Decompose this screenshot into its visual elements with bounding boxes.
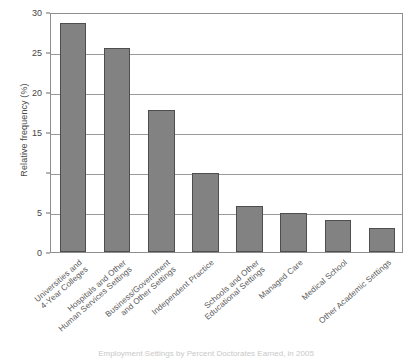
y-tick-label-5: 5 <box>0 208 42 218</box>
y-tick-label-20: 20 <box>0 88 42 98</box>
y-tick-label-30: 30 <box>0 8 42 18</box>
bar <box>148 110 174 252</box>
bar-chart-figure: Relative frequency (%) 0 5 15 20 25 30 U… <box>0 0 412 360</box>
bar <box>280 213 306 252</box>
bar <box>369 228 395 252</box>
plot-area <box>50 13 403 253</box>
y-tick-label-15: 15 <box>0 128 42 138</box>
y-tick-label-0: 0 <box>0 248 42 258</box>
x-axis-label: Other Academic Settings <box>274 258 393 360</box>
x-axis-label: Managed Care <box>185 258 304 360</box>
x-axis-label: Schools and Other Educational Settings <box>141 258 267 360</box>
x-axis-label: Medical School <box>230 258 349 360</box>
bar <box>192 173 218 252</box>
x-axis-label: Business/Government and Other Settings <box>53 258 179 360</box>
bar <box>236 206 262 252</box>
y-tick-label-25: 25 <box>0 48 42 58</box>
bar <box>325 220 351 252</box>
x-axis-label: Universities and 4-Year Colleges <box>0 258 90 360</box>
x-axis-label: Hospitals and Other Human Services Setti… <box>9 258 135 360</box>
x-axis-label: Independent Practice <box>97 258 216 360</box>
bar <box>104 48 130 252</box>
figure-caption: Employment Settings by Percent Doctorate… <box>0 349 412 358</box>
bar <box>60 23 86 252</box>
